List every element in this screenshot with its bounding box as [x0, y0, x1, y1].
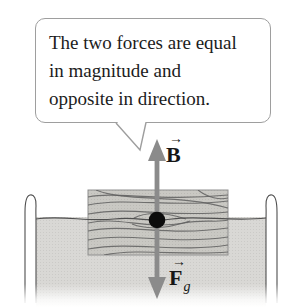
gravity-force-letter: F [169, 265, 182, 290]
callout-bubble: The two forces are equal in magnitude an… [35, 18, 271, 123]
container-right-wall [266, 195, 277, 303]
figure-canvas: The two forces are equal in magnitude an… [0, 0, 302, 307]
center-of-mass-dot [149, 212, 166, 229]
callout-text-line-3: opposite in direction. [49, 85, 270, 113]
gravity-force-subscript: g [183, 279, 190, 294]
gravity-force-arrow [148, 220, 166, 299]
wood-block [88, 190, 228, 255]
callout-text-line-2: in magnitude and [49, 57, 270, 85]
wood-grain-lines [88, 190, 228, 255]
water-surface-line [36, 218, 266, 221]
callout-tail [116, 121, 146, 151]
buoyant-force-letter: B [166, 142, 181, 167]
water [36, 217, 266, 307]
gravity-force-label: →Fg [169, 257, 189, 289]
buoyant-force-arrow [148, 139, 166, 222]
container-left-wall [25, 195, 36, 303]
buoyant-force-label: →B [166, 134, 182, 166]
bottom-fade [0, 284, 302, 307]
callout-text-line-1: The two forces are equal [49, 29, 270, 57]
